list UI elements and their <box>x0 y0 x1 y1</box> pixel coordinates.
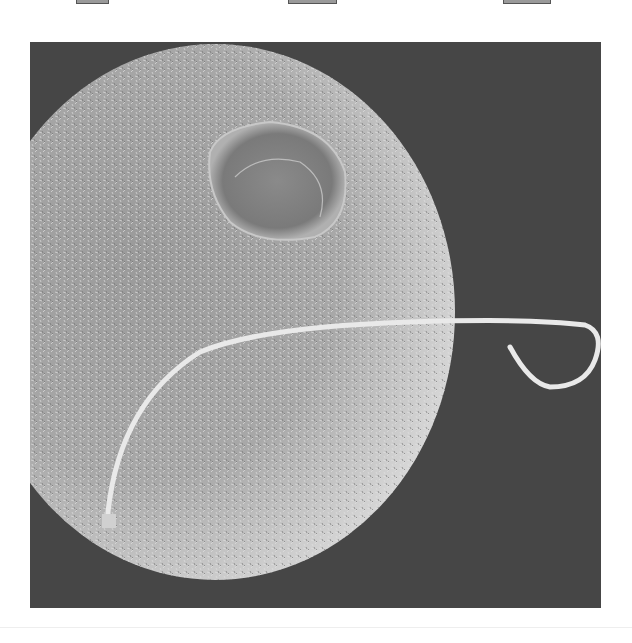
top-tab-left <box>76 0 109 4</box>
top-tab-right <box>503 0 551 4</box>
divider <box>0 627 632 628</box>
micrograph-image <box>30 42 601 608</box>
sperm-head <box>102 514 116 528</box>
top-tab-center <box>288 0 337 4</box>
